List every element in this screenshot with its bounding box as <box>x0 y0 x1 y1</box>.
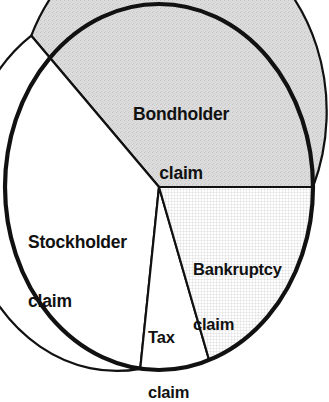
pie-chart-svg <box>0 0 329 395</box>
pie-chart: Bondholder claim Stockholder claim Tax c… <box>0 0 329 395</box>
